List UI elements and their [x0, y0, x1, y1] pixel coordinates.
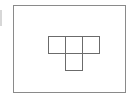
clipped-edge-fragment [0, 10, 2, 26]
shape-cell [48, 36, 66, 54]
shape-cell-empty [48, 53, 66, 71]
shape-cell-empty [82, 53, 100, 71]
shape-cell [65, 36, 83, 54]
t-tetromino-shape [48, 36, 99, 70]
shape-cell [82, 36, 100, 54]
shape-cell [65, 53, 83, 71]
shape-panel [13, 5, 126, 93]
